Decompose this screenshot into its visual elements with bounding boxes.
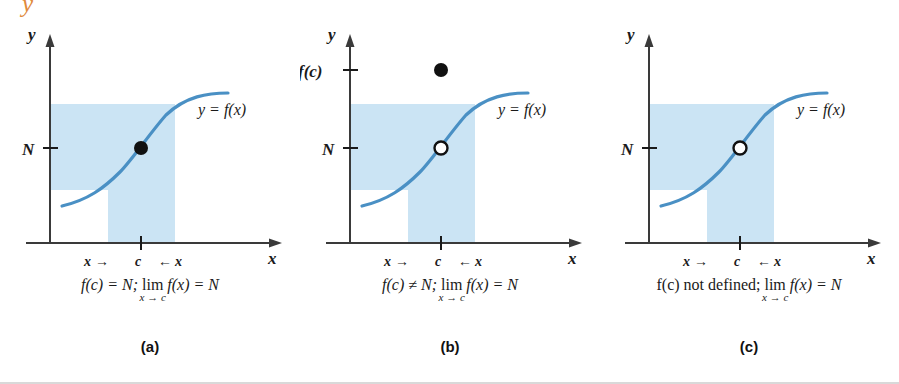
caption-b-lead: f(c) ≠ N; [382, 276, 437, 293]
panel-tag-c: (c) [599, 338, 899, 355]
approach-right-label: x [773, 254, 781, 269]
plot-b: y x f(c) N y = f(x) x → c ← x [300, 0, 600, 290]
fc-tick-label: f(c) [300, 62, 323, 81]
plot-svg-b: y x f(c) N y = f(x) x → c ← x [300, 0, 600, 290]
x-axis-arrowhead [569, 239, 582, 248]
approach-right-arrow-icon: ← [458, 254, 472, 269]
x-axis-label: x [567, 249, 577, 268]
caption-a-lead: f(c) = N; [81, 276, 138, 293]
caption-a: f(c) = N; lim x → c f(x) = N [0, 276, 300, 294]
caption-c-tail: f(x) = N [790, 276, 842, 293]
approach-right-arrow-icon: ← [757, 254, 771, 269]
approach-left-arrow-icon: → [694, 254, 708, 269]
approach-right-label: x [174, 254, 182, 269]
limit-figure: y y x [0, 0, 899, 384]
open-circle-marker [435, 142, 448, 155]
y-axis-label: y [26, 25, 36, 44]
caption-c: f(c) not defined; lim x → c f(x) = N [599, 276, 899, 294]
lim-subscript-a: x → c [140, 291, 166, 303]
center-label: c [734, 254, 741, 269]
caption-a-tail: f(x) = N [167, 276, 219, 293]
x-axis-arrowhead [868, 239, 881, 248]
panel-c: y x N y = f(x) x → c ← x f(c) not define… [599, 0, 899, 384]
approach-left-label: x [83, 254, 91, 269]
plot-c: y x N y = f(x) x → c ← x [599, 0, 899, 290]
y-axis-label: y [625, 25, 635, 44]
caption-b: f(c) ≠ N; lim x → c f(x) = N [300, 276, 600, 294]
limit-operator-a: lim x → c [142, 276, 163, 294]
panel-tag-a: (a) [0, 338, 300, 355]
x-axis-label: x [267, 249, 277, 268]
limit-operator-c: lim x → c [764, 276, 785, 294]
panel-a: y x N y = f(x) x → c ← x f(c) = N; lim x… [0, 0, 300, 384]
approach-left-arrow-icon: → [395, 254, 409, 269]
approach-left-label: x [682, 254, 690, 269]
approach-right-arrow-icon: ← [158, 254, 172, 269]
approach-left-label: x [383, 254, 391, 269]
open-circle-marker [734, 142, 747, 155]
center-label: c [435, 254, 442, 269]
y-axis-label: y [326, 25, 336, 44]
closed-dot-marker [134, 141, 148, 155]
curve-label: y = f(x) [196, 101, 246, 119]
y-axis-arrowhead [46, 34, 55, 47]
approach-right-label: x [474, 254, 482, 269]
plot-a: y x N y = f(x) x → c ← x [0, 0, 300, 290]
plot-svg-c: y x N y = f(x) x → c ← x [599, 0, 899, 290]
closed-dot-marker [434, 63, 448, 77]
panel-tag-b: (b) [300, 338, 600, 355]
n-tick-label: N [620, 140, 634, 159]
curve-label: y = f(x) [795, 101, 845, 119]
approach-left-arrow-icon: → [95, 254, 109, 269]
limit-operator-b: lim x → c [441, 276, 462, 294]
lim-subscript-c: x → c [762, 291, 788, 303]
lim-subscript-b: x → c [439, 291, 465, 303]
x-axis-arrowhead [269, 239, 282, 248]
panel-b: y x f(c) N y = f(x) x → c ← x f(c) ≠ N; … [300, 0, 600, 384]
plot-svg-a: y x N y = f(x) x → c ← x [0, 0, 300, 290]
center-label: c [135, 254, 142, 269]
y-axis-arrowhead [645, 34, 654, 47]
caption-c-lead: f(c) not defined; [657, 276, 761, 293]
y-axis-arrowhead [346, 34, 355, 47]
n-tick-label: N [21, 140, 35, 159]
caption-b-tail: f(x) = N [466, 276, 518, 293]
curve-label: y = f(x) [496, 101, 546, 119]
x-axis-label: x [866, 249, 876, 268]
n-tick-label: N [321, 140, 335, 159]
